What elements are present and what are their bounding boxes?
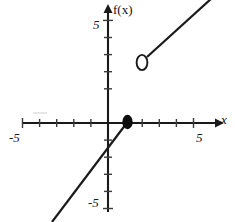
function-graph-figure: f(x) x 5 -5 -5 5 [0, 0, 235, 222]
y-axis-arrowhead [104, 4, 113, 13]
closed-endpoint-dot [122, 115, 132, 129]
x-axis-tick-label-left: -5 [9, 131, 20, 144]
y-axis-tick-label-bottom: -5 [88, 196, 99, 209]
x-axis-label: x [221, 113, 227, 126]
y-axis-tick-label-top: 5 [93, 18, 100, 31]
plot-area [0, 0, 235, 222]
y-axis-label: f(x) [113, 3, 133, 16]
open-endpoint-circle [137, 55, 148, 70]
x-axis-tick-label-right: 5 [196, 131, 203, 144]
upper-ray-line [147, 0, 212, 57]
